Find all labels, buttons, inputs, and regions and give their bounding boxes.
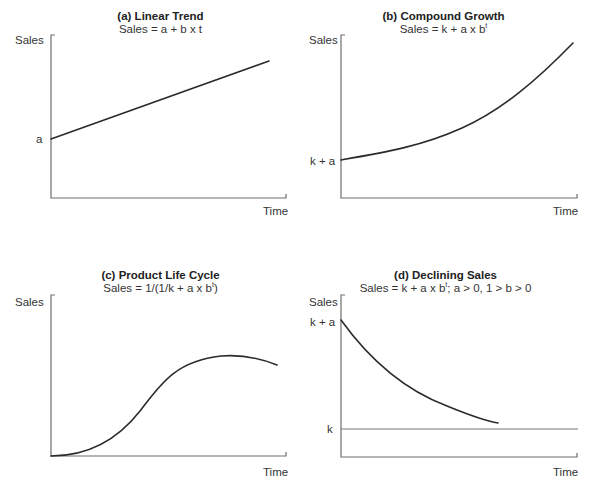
axes (51, 35, 286, 198)
declining-curve (341, 320, 498, 423)
plot-area (297, 243, 594, 486)
life-cycle-curve (51, 356, 277, 456)
axes (51, 295, 286, 456)
panel-declining-sales: (d) Declining Sales Sales = k + a x bt; … (297, 243, 594, 486)
panel-compound-growth: (b) Compound Growth Sales = k + a x bt S… (297, 0, 594, 243)
plot-area (297, 0, 594, 243)
growth-curve (341, 43, 573, 160)
trend-line (51, 61, 269, 139)
plot-area (0, 243, 297, 486)
axes (341, 35, 577, 198)
panel-product-life-cycle: (c) Product Life Cycle Sales = 1/(1/k + … (0, 243, 297, 486)
plot-area (0, 0, 297, 243)
panel-linear-trend: (a) Linear Trend Sales = a + b x t Sales… (0, 0, 297, 243)
axes (341, 295, 577, 457)
